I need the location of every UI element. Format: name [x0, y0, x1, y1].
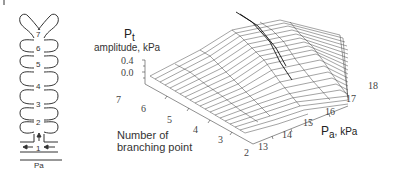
branch-tick-6: 6 — [141, 103, 146, 114]
z-tick-0.4: 0.4 — [121, 55, 134, 66]
pa-axis-label-unit: , kPa — [335, 126, 358, 137]
z-tick-0.0: 0.0 — [121, 67, 134, 78]
pa-tick-13: 13 — [258, 141, 268, 152]
branch-tick-7: 7 — [116, 94, 121, 105]
pa-axis-label-main: P — [321, 124, 329, 138]
pa-axis-label: Pa, kPa — [321, 124, 357, 140]
pa-tick-15: 15 — [303, 117, 313, 128]
branch-tick-5: 5 — [167, 114, 172, 125]
surface-plot — [0, 0, 393, 175]
z-axis-title-main: P — [124, 27, 132, 41]
pa-tick-16: 16 — [325, 106, 335, 117]
z-axis-title: Pt — [124, 27, 135, 43]
branch-axis-label-line2: branching point — [117, 141, 192, 153]
branch-tick-4: 4 — [193, 124, 198, 135]
branch-tick-3: 3 — [218, 134, 223, 145]
pa-tick-18: 18 — [368, 80, 378, 91]
pa-tick-17: 17 — [346, 93, 356, 104]
pa-tick-14: 14 — [282, 129, 292, 140]
branch-tick-2: 2 — [244, 147, 249, 158]
branch-axis-label-line1: Number of — [117, 129, 168, 141]
z-axis-title-line2: amplitude, kPa — [94, 42, 160, 53]
